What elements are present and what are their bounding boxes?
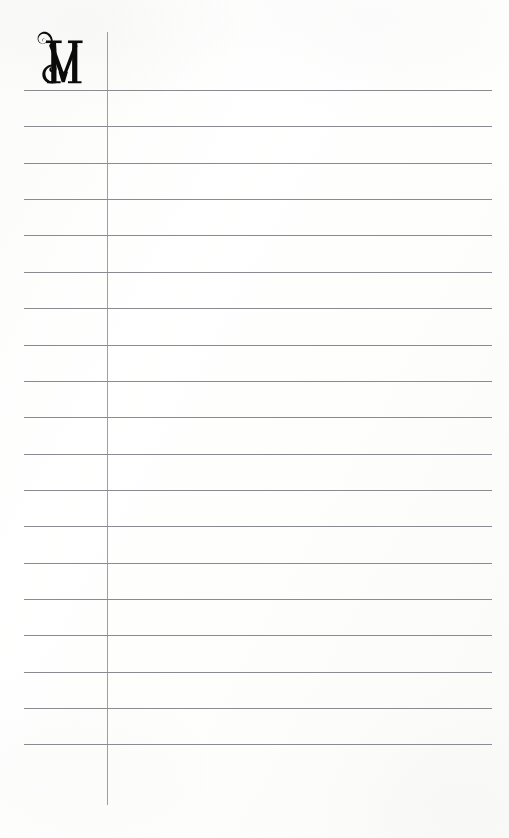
ruled-line — [24, 199, 492, 200]
margin-rule-line — [107, 32, 108, 805]
ruled-lines-layer — [0, 0, 509, 838]
manuscript-page — [0, 0, 509, 838]
ruled-line — [24, 235, 492, 236]
ruled-line — [24, 526, 492, 527]
ruled-line — [24, 744, 492, 745]
ruled-line — [24, 454, 492, 455]
ruled-line — [24, 563, 492, 564]
ruled-line — [24, 672, 492, 673]
ruled-line — [24, 417, 492, 418]
ruled-line — [24, 381, 492, 382]
ruled-line — [24, 308, 492, 309]
ruled-line — [24, 490, 492, 491]
ruled-line — [24, 90, 492, 91]
ruled-line — [24, 163, 492, 164]
ruled-line — [24, 599, 492, 600]
ruled-line — [24, 635, 492, 636]
ruled-line — [24, 708, 492, 709]
ruled-line — [24, 345, 492, 346]
ruled-line — [24, 126, 492, 127]
ruled-line — [24, 272, 492, 273]
